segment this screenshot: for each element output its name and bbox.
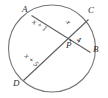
circle-outline (9, 5, 96, 92)
geometry-figure: A C B D P x + 1 x 4 x + 5 (0, 0, 108, 98)
chord-cd (24, 20, 89, 81)
vertex-label-c: C (88, 6, 94, 15)
vertex-label-p: P (66, 41, 72, 50)
vertex-label-a: A (22, 5, 28, 14)
vertex-label-d: D (13, 79, 20, 88)
vertex-label-b: B (93, 45, 99, 54)
